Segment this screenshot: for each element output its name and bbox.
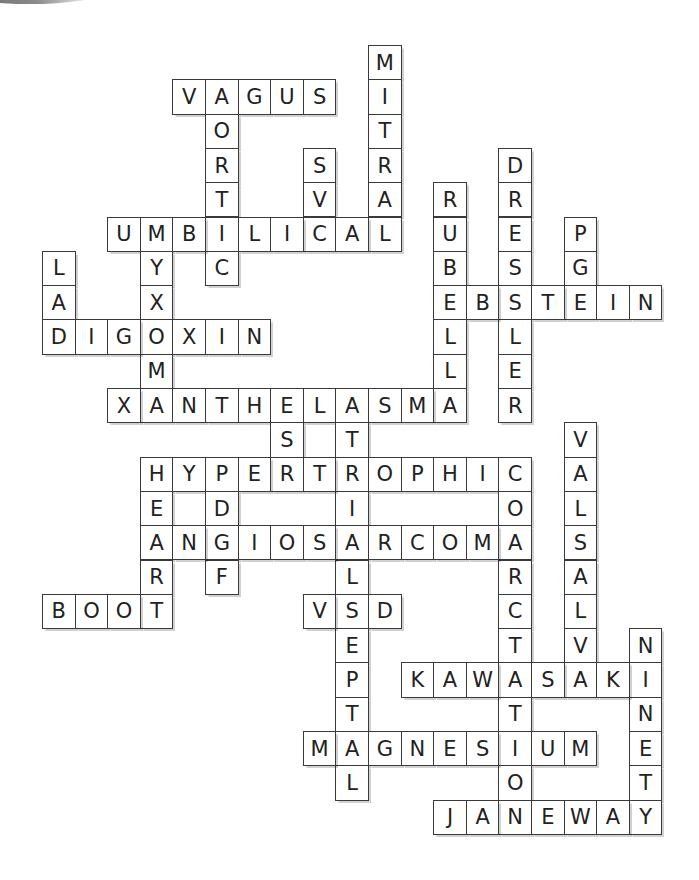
crossword-cell[interactable]: T xyxy=(531,285,565,320)
crossword-cell[interactable]: O xyxy=(270,525,304,560)
crossword-cell[interactable]: S xyxy=(335,594,369,629)
crossword-cell[interactable]: A xyxy=(140,388,174,423)
crossword-cell[interactable]: S xyxy=(270,422,304,457)
crossword-cell[interactable]: T xyxy=(498,697,532,732)
crossword-cell[interactable]: C xyxy=(498,594,532,629)
crossword-cell[interactable]: D xyxy=(498,148,532,183)
crossword-cell[interactable]: E xyxy=(531,800,565,835)
crossword-cell[interactable]: W xyxy=(564,800,598,835)
crossword-cell[interactable]: M xyxy=(303,731,337,766)
crossword-cell[interactable]: T xyxy=(629,765,663,800)
crossword-cell[interactable]: M xyxy=(466,525,500,560)
crossword-cell[interactable]: M xyxy=(140,217,174,252)
crossword-cell[interactable]: K xyxy=(401,662,435,697)
crossword-cell[interactable]: V xyxy=(303,594,337,629)
crossword-cell[interactable]: G xyxy=(564,251,598,286)
crossword-cell[interactable]: I xyxy=(75,319,109,354)
crossword-cell[interactable]: B xyxy=(42,594,76,629)
crossword-cell[interactable]: A xyxy=(564,662,598,697)
crossword-cell[interactable]: C xyxy=(303,217,337,252)
crossword-cell[interactable]: T xyxy=(368,114,402,149)
crossword-cell[interactable]: E xyxy=(498,354,532,389)
crossword-cell[interactable]: E xyxy=(433,731,467,766)
crossword-cell[interactable]: O xyxy=(140,319,174,354)
crossword-cell[interactable]: H xyxy=(433,457,467,492)
crossword-cell[interactable]: E xyxy=(629,731,663,766)
crossword-cell[interactable]: L xyxy=(368,217,402,252)
crossword-cell[interactable]: O xyxy=(205,114,239,149)
crossword-cell[interactable]: S xyxy=(303,79,337,114)
crossword-cell[interactable]: L xyxy=(238,217,272,252)
crossword-cell[interactable]: R xyxy=(498,560,532,595)
crossword-cell[interactable]: E xyxy=(335,628,369,663)
crossword-cell[interactable]: T xyxy=(205,182,239,217)
crossword-cell[interactable]: T xyxy=(335,422,369,457)
crossword-cell[interactable]: S xyxy=(368,388,402,423)
crossword-cell[interactable]: R xyxy=(205,148,239,183)
crossword-cell[interactable]: I xyxy=(498,731,532,766)
crossword-cell[interactable]: L xyxy=(303,388,337,423)
crossword-cell[interactable]: V xyxy=(303,182,337,217)
crossword-cell[interactable]: Y xyxy=(140,251,174,286)
crossword-cell[interactable]: L xyxy=(335,560,369,595)
crossword-cell[interactable]: N xyxy=(629,628,663,663)
crossword-cell[interactable]: W xyxy=(466,662,500,697)
crossword-cell[interactable]: A xyxy=(335,388,369,423)
crossword-cell[interactable]: A xyxy=(564,560,598,595)
crossword-cell[interactable]: T xyxy=(335,697,369,732)
crossword-cell[interactable]: R xyxy=(140,560,174,595)
crossword-cell[interactable]: G xyxy=(107,319,141,354)
crossword-cell[interactable]: J xyxy=(433,800,467,835)
crossword-cell[interactable]: D xyxy=(205,491,239,526)
crossword-cell[interactable]: U xyxy=(107,217,141,252)
crossword-cell[interactable]: L xyxy=(433,319,467,354)
crossword-cell[interactable]: N xyxy=(498,800,532,835)
crossword-cell[interactable]: H xyxy=(238,388,272,423)
crossword-cell[interactable]: S xyxy=(498,285,532,320)
crossword-cell[interactable]: X xyxy=(140,285,174,320)
crossword-cell[interactable]: L xyxy=(564,491,598,526)
crossword-cell[interactable]: S xyxy=(303,525,337,560)
crossword-cell[interactable]: V xyxy=(564,628,598,663)
crossword-cell[interactable]: P xyxy=(205,457,239,492)
crossword-cell[interactable]: X xyxy=(172,319,206,354)
crossword-cell[interactable]: H xyxy=(140,457,174,492)
crossword-cell[interactable]: O xyxy=(498,765,532,800)
crossword-cell[interactable]: M xyxy=(140,354,174,389)
crossword-cell[interactable]: I xyxy=(596,285,630,320)
crossword-cell[interactable]: N xyxy=(629,697,663,732)
crossword-cell[interactable]: K xyxy=(596,662,630,697)
crossword-cell[interactable]: G xyxy=(368,731,402,766)
crossword-cell[interactable]: E xyxy=(140,491,174,526)
crossword-cell[interactable]: N xyxy=(401,731,435,766)
crossword-cell[interactable]: F xyxy=(205,560,239,595)
crossword-cell[interactable]: D xyxy=(42,319,76,354)
crossword-cell[interactable]: R xyxy=(433,182,467,217)
crossword-cell[interactable]: T xyxy=(205,388,239,423)
crossword-cell[interactable]: R xyxy=(368,148,402,183)
crossword-cell[interactable]: L xyxy=(498,319,532,354)
crossword-cell[interactable]: R xyxy=(498,388,532,423)
crossword-cell[interactable]: O xyxy=(498,491,532,526)
crossword-cell[interactable]: G xyxy=(238,79,272,114)
crossword-cell[interactable]: A xyxy=(205,79,239,114)
crossword-cell[interactable]: E xyxy=(433,285,467,320)
crossword-cell[interactable]: R xyxy=(368,525,402,560)
crossword-cell[interactable]: I xyxy=(205,217,239,252)
crossword-cell[interactable]: I xyxy=(368,79,402,114)
crossword-cell[interactable]: V xyxy=(564,422,598,457)
crossword-cell[interactable]: A xyxy=(42,285,76,320)
crossword-cell[interactable]: U xyxy=(270,79,304,114)
crossword-cell[interactable]: X xyxy=(107,388,141,423)
crossword-cell[interactable]: C xyxy=(401,525,435,560)
crossword-cell[interactable]: A xyxy=(433,662,467,697)
crossword-cell[interactable]: U xyxy=(433,217,467,252)
crossword-cell[interactable]: A xyxy=(140,525,174,560)
crossword-cell[interactable]: T xyxy=(498,628,532,663)
crossword-cell[interactable]: C xyxy=(498,457,532,492)
crossword-cell[interactable]: U xyxy=(531,731,565,766)
crossword-cell[interactable]: A xyxy=(564,457,598,492)
crossword-cell[interactable]: N xyxy=(238,319,272,354)
crossword-cell[interactable]: L xyxy=(433,354,467,389)
crossword-cell[interactable]: A xyxy=(596,800,630,835)
